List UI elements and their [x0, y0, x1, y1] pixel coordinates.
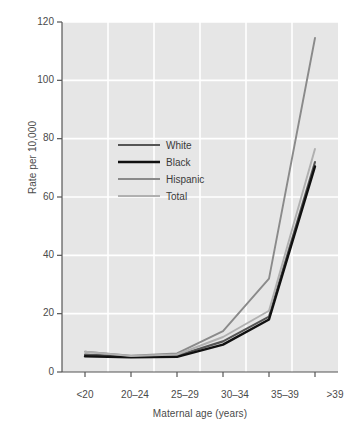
line-chart: Rate per 10,000 Maternal age (years) 120…	[0, 0, 344, 434]
legend-label-white: White	[166, 140, 192, 151]
plot-area	[0, 0, 344, 434]
legend-label-hispanic: Hispanic	[166, 174, 204, 185]
legend-label-black: Black	[166, 157, 190, 168]
legend-label-total: Total	[166, 191, 187, 202]
